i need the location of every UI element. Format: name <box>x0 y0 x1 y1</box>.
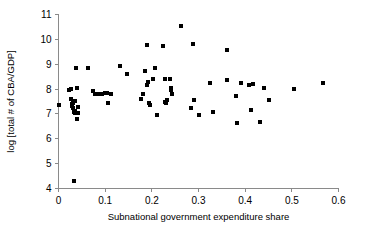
data-point <box>163 77 167 81</box>
x-axis-title: Subnational government expenditure share <box>108 211 290 222</box>
y-tick-group: 4567891011 <box>40 9 58 194</box>
x-tick-label: 0.1 <box>98 195 112 206</box>
data-point <box>249 108 253 112</box>
data-point <box>73 99 77 103</box>
data-point <box>76 105 80 109</box>
y-tick-label: 6 <box>46 133 52 144</box>
data-point <box>169 86 173 90</box>
x-tick-label: 0.4 <box>238 195 252 206</box>
data-point <box>239 81 243 85</box>
x-tick-label: 0.6 <box>332 195 346 206</box>
data-point <box>267 98 271 102</box>
data-point <box>189 106 193 110</box>
data-point <box>225 48 229 52</box>
data-point <box>86 66 90 70</box>
data-point <box>179 24 183 28</box>
data-point <box>146 80 150 84</box>
data-point <box>148 103 152 107</box>
data-point <box>208 81 212 85</box>
x-tick-label: 0.5 <box>285 195 299 206</box>
data-point <box>72 179 76 183</box>
data-point <box>197 113 201 117</box>
x-tick-label: 0.3 <box>192 195 206 206</box>
y-tick-label: 7 <box>46 108 52 119</box>
data-point <box>168 77 172 81</box>
data-point <box>153 66 157 70</box>
data-point <box>118 64 122 68</box>
data-point <box>262 86 266 90</box>
data-point <box>76 111 80 115</box>
data-point <box>57 103 61 107</box>
data-point <box>225 78 229 82</box>
x-tick-label: 0.2 <box>145 195 159 206</box>
data-point <box>155 113 159 117</box>
data-point <box>141 92 145 96</box>
y-tick-label: 11 <box>41 9 52 20</box>
data-point <box>74 66 78 70</box>
data-point <box>151 77 155 81</box>
y-tick-label: 10 <box>40 34 52 45</box>
data-point <box>170 92 174 96</box>
y-tick-label: 4 <box>46 183 52 194</box>
data-point <box>191 42 195 46</box>
y-tick-label: 5 <box>46 158 52 169</box>
y-axis-title: log [total # of CBA/GDP] <box>5 50 16 152</box>
scatter-plot-figure: 4567891011 00.10.20.30.40.50.6 Subnation… <box>0 0 365 234</box>
y-tick-label: 9 <box>46 59 52 70</box>
data-point <box>164 101 168 105</box>
data-point <box>97 92 101 96</box>
data-point <box>251 82 255 86</box>
data-point <box>211 110 215 114</box>
x-tick-group: 00.10.20.30.40.50.6 <box>56 189 346 206</box>
data-point <box>109 92 113 96</box>
data-point <box>75 86 79 90</box>
data-point-group <box>57 24 324 183</box>
data-point <box>292 87 296 91</box>
data-point <box>145 43 149 47</box>
data-point <box>165 98 169 102</box>
data-point <box>234 94 238 98</box>
data-point <box>139 97 143 101</box>
plot-canvas: 4567891011 00.10.20.30.40.50.6 Subnation… <box>0 0 365 234</box>
data-point <box>105 91 109 95</box>
data-point <box>235 121 239 125</box>
data-point <box>192 98 196 102</box>
data-point <box>258 120 262 124</box>
data-point <box>75 117 79 121</box>
data-point <box>106 101 110 105</box>
data-point <box>161 44 165 48</box>
y-tick-label: 8 <box>46 84 52 95</box>
data-point <box>125 72 129 76</box>
data-point <box>143 69 147 73</box>
data-point <box>321 81 325 85</box>
data-point <box>69 87 73 91</box>
data-point <box>69 97 73 101</box>
x-tick-label: 0 <box>56 195 62 206</box>
